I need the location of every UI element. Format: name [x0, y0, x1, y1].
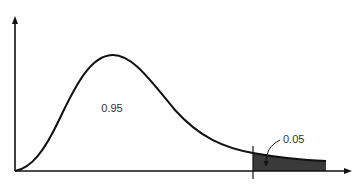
acceptance-area-label: 0.95: [101, 102, 122, 114]
tail-area-label: 0.05: [283, 133, 304, 145]
chi-square-density-chart: 0.95 0.05: [0, 0, 362, 187]
density-curve: [15, 55, 326, 171]
